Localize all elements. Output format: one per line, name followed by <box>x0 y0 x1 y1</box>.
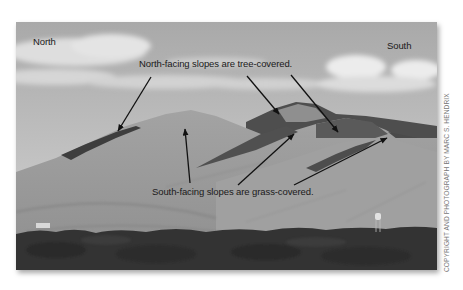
north-label: North <box>33 36 56 47</box>
south-label: South <box>387 40 411 51</box>
annotated-landscape-figure: North South North-facing slopes are tree… <box>0 0 463 290</box>
south-facing-caption: South-facing slopes are grass-covered. <box>152 186 313 197</box>
building <box>36 223 50 228</box>
photo-credit: COPYRIGHT AND PHOTOGRAPH BY MARC S. HEND… <box>443 93 450 272</box>
north-facing-caption: North-facing slopes are tree-covered. <box>139 58 292 69</box>
